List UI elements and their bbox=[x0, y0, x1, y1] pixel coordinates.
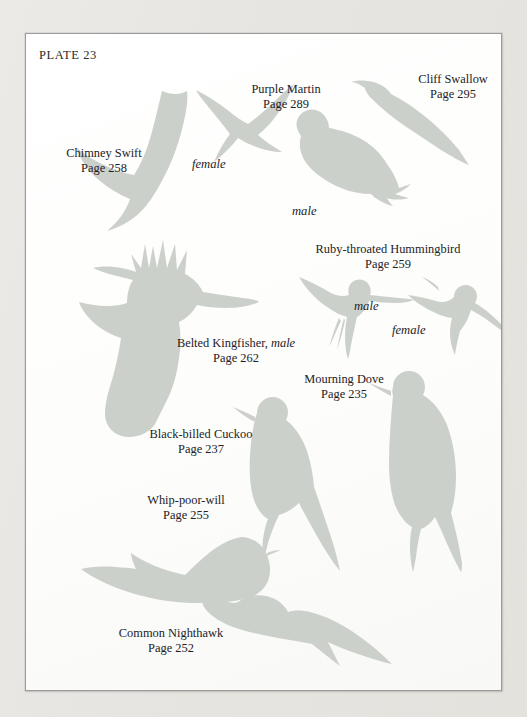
sex-label-hummingbird-female: female bbox=[392, 323, 426, 338]
bird-page: Page 258 bbox=[34, 161, 174, 176]
bird-name: Belted Kingfisher, bbox=[177, 336, 268, 350]
bird-page: Page 262 bbox=[151, 351, 321, 366]
label-purple-martin: Purple Martin Page 289 bbox=[216, 82, 356, 111]
label-cliff-swallow: Cliff Swallow Page 295 bbox=[388, 72, 502, 101]
label-common-nighthawk: Common Nighthawk Page 252 bbox=[81, 626, 261, 655]
label-mourning-dove: Mourning Dove Page 235 bbox=[274, 372, 414, 401]
bird-page: Page 295 bbox=[388, 87, 502, 102]
bird-name: Black-billed Cuckoo bbox=[121, 427, 281, 442]
bird-page: Page 237 bbox=[121, 442, 281, 457]
bird-name: Ruby-throated Hummingbird bbox=[288, 242, 488, 257]
bird-page: Page 235 bbox=[274, 387, 414, 402]
bird-name: Chimney Swift bbox=[34, 146, 174, 161]
bird-name-line: Belted Kingfisher, male bbox=[151, 336, 321, 351]
bird-page: Page 289 bbox=[216, 97, 356, 112]
silhouette-hummingbird-female bbox=[408, 277, 502, 355]
bird-name: Whip-poor-will bbox=[116, 493, 256, 508]
label-whip-poor-will: Whip-poor-will Page 255 bbox=[116, 493, 256, 522]
bird-page: Page 259 bbox=[288, 257, 488, 272]
bird-page: Page 255 bbox=[116, 508, 256, 523]
bird-sex: male bbox=[271, 336, 295, 350]
bird-name: Mourning Dove bbox=[274, 372, 414, 387]
bird-name: Cliff Swallow bbox=[388, 72, 502, 87]
bird-name: Common Nighthawk bbox=[81, 626, 261, 641]
sex-label-martin-male: male bbox=[292, 204, 316, 219]
plate-page: PLATE 23 bbox=[25, 33, 502, 691]
bird-page: Page 252 bbox=[81, 641, 261, 656]
label-black-billed-cuckoo: Black-billed Cuckoo Page 237 bbox=[121, 427, 281, 456]
label-belted-kingfisher: Belted Kingfisher, male Page 262 bbox=[151, 336, 321, 365]
bird-name: Purple Martin bbox=[216, 82, 356, 97]
sex-label-hummingbird-male: male bbox=[354, 299, 378, 314]
sex-label-martin-female: female bbox=[192, 157, 226, 172]
label-chimney-swift: Chimney Swift Page 258 bbox=[34, 146, 174, 175]
label-ruby-throated-hummingbird: Ruby-throated Hummingbird Page 259 bbox=[288, 242, 488, 271]
page-title: PLATE 23 bbox=[39, 48, 97, 63]
